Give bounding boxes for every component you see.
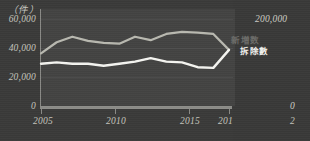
- right-y-tick-label-200000: 200,000: [255, 14, 287, 24]
- chart-screenshot: （件） 60,000 40,000 20,000 0 2005 2010 201…: [0, 0, 310, 141]
- series-line-demolition: [41, 50, 229, 68]
- right-x-tick-label-partial: 2: [290, 116, 295, 126]
- series-label-demolition: 拆除數: [240, 44, 269, 56]
- series-layer: [0, 0, 233, 141]
- right-y-tick-label-0: 0: [290, 101, 295, 111]
- chart-panel-left: （件） 60,000 40,000 20,000 0 2005 2010 201…: [0, 0, 233, 141]
- right-plot-sliver: [233, 9, 235, 106]
- series-line-new-construction: [41, 32, 229, 53]
- chart-panel-right-cropped: 200,000 0 2: [233, 0, 310, 141]
